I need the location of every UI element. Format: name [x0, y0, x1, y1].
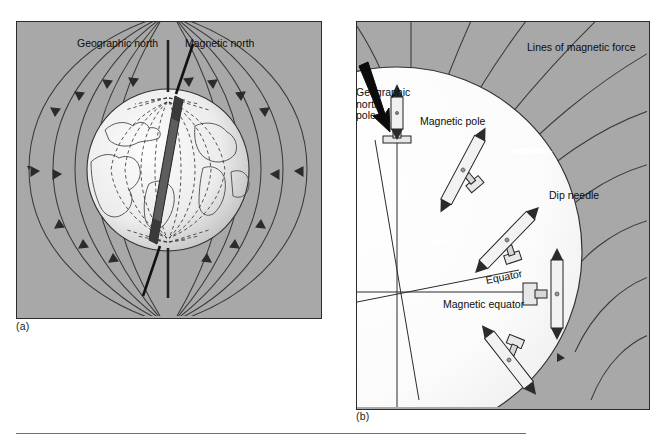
- panel-a-graphic: [17, 22, 319, 316]
- panel-b-graphic: [357, 22, 647, 407]
- figure-earth-magnetic-field: Geographic north Magnetic north Lines of…: [0, 0, 664, 445]
- label-geographic-north: Geographic north: [77, 38, 158, 50]
- label-magnetic-pole: Magnetic pole: [420, 116, 485, 128]
- label-magnetic-north: Magnetic north: [185, 38, 254, 50]
- caption-panel-a: (a): [16, 320, 29, 332]
- label-lines-of-magnetic-force: Lines of magnetic force: [527, 42, 636, 54]
- bottom-divider-rule: [16, 433, 526, 434]
- label-dip-needle: Dip needle: [549, 190, 599, 202]
- label-geographic-north-pole: Geographic north pole: [356, 87, 410, 122]
- panel-a: [16, 21, 322, 319]
- panel-b: [356, 21, 650, 410]
- caption-panel-b: (b): [356, 410, 369, 422]
- label-magnetic-equator: Magnetic equator: [443, 299, 524, 311]
